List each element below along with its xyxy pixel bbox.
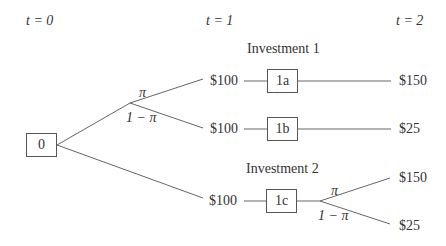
investment-1-label: Investment 1 [247, 42, 320, 56]
node-root: 0 [26, 133, 57, 157]
node-1a-label: 1a [276, 73, 289, 89]
value-1a-t2: $150 [399, 74, 427, 88]
node-1a: 1a [267, 69, 298, 93]
decision-tree-diagram: t = 0 t = 1 t = 2 Investment 1 Investmen… [0, 0, 446, 246]
prob-one-minus-pi-lower: 1 − π [318, 209, 348, 223]
value-1c-up-t2: $150 [399, 171, 427, 185]
node-1b: 1b [267, 117, 298, 141]
node-1c-label: 1c [275, 193, 288, 209]
value-1a-t1: $100 [210, 74, 238, 88]
investment-2-label: Investment 2 [246, 162, 319, 176]
value-1b-t2: $25 [399, 122, 420, 136]
value-1c-t1: $100 [209, 194, 237, 208]
time-label-t1: t = 1 [206, 14, 233, 28]
value-1b-t1: $100 [210, 122, 238, 136]
node-1b-label: 1b [276, 121, 290, 137]
time-label-t2: t = 2 [396, 14, 423, 28]
prob-one-minus-pi-upper: 1 − π [126, 111, 156, 125]
node-root-label: 0 [38, 137, 45, 153]
value-1c-down-t2: $25 [399, 219, 420, 233]
prob-pi-lower: π [331, 184, 338, 198]
node-1c: 1c [266, 189, 297, 213]
time-label-t0: t = 0 [26, 14, 53, 28]
prob-pi-upper: π [139, 86, 146, 100]
